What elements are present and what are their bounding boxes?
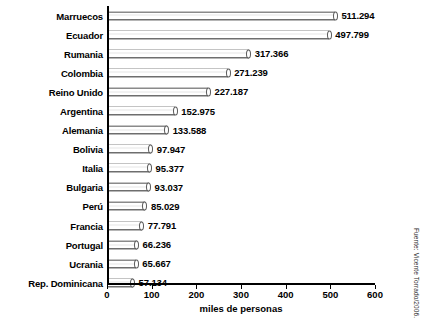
bar: 271.239 [107, 68, 228, 77]
bar: 95.377 [107, 164, 150, 173]
bar-value-label: 93.037 [155, 182, 183, 193]
bar-row: Perú85.029 [107, 197, 375, 216]
bar-body [107, 202, 145, 211]
x-tick-label: 600 [367, 289, 383, 300]
bar: 97.947 [107, 145, 151, 154]
source-note: Fuente: Vicente Torrado/2006. [413, 228, 420, 318]
x-tick-label: 100 [144, 289, 160, 300]
bar-end-cap [147, 164, 152, 173]
bar-body [107, 164, 150, 173]
bar-value-label: 65.667 [142, 258, 170, 269]
bar: 317.366 [107, 49, 249, 58]
bar-end-cap [148, 145, 153, 154]
bar-body [107, 30, 329, 39]
bar-rows: Marruecos511.294Ecuador497.799Rumania317… [107, 6, 375, 283]
bar-row: Reino Unido227.187 [107, 82, 375, 101]
bar-row: Bolivia97.947 [107, 140, 375, 159]
bar: 66.236 [107, 240, 137, 249]
bar-row: Argentina152.975 [107, 101, 375, 120]
bar-value-label: 66.236 [143, 239, 171, 250]
bar-end-cap [226, 68, 231, 77]
category-label: Perú [82, 201, 103, 212]
bar-row: Colombia271.239 [107, 63, 375, 82]
bar-row: Alemania133.588 [107, 121, 375, 140]
category-label: Colombia [61, 67, 103, 78]
bar-row: Rumania317.366 [107, 44, 375, 63]
x-tick-label: 500 [322, 289, 338, 300]
x-tick-label: 200 [188, 289, 204, 300]
bar-value-label: 97.947 [157, 144, 185, 155]
bar-row: Bulgaria93.037 [107, 178, 375, 197]
category-label: Alemania [62, 125, 103, 136]
bar: 85.029 [107, 202, 145, 211]
x-axis-title: miles de personas [107, 303, 375, 314]
bar-value-label: 497.799 [335, 29, 369, 40]
bar-body [107, 259, 136, 268]
bar-body [107, 240, 137, 249]
bar-end-cap [173, 107, 178, 116]
bar: 511.294 [107, 11, 335, 20]
bar-row: Ecuador497.799 [107, 25, 375, 44]
category-label: Argentina [60, 106, 103, 117]
bar-end-cap [246, 49, 251, 58]
bar-value-label: 152.975 [181, 106, 215, 117]
bar-value-label: 95.377 [156, 163, 184, 174]
bar-body [107, 49, 249, 58]
category-label: Italia [82, 163, 103, 174]
x-tick-label: 400 [278, 289, 294, 300]
bar-value-label: 317.366 [255, 48, 289, 59]
x-axis-ticks: 0100200300400500600 [107, 285, 375, 301]
bar-body [107, 145, 151, 154]
bar-body [107, 107, 175, 116]
bar: 77.791 [107, 221, 142, 230]
bar-end-cap [142, 202, 147, 211]
plot-area: Marruecos511.294Ecuador497.799Rumania317… [107, 6, 375, 283]
bar: 65.667 [107, 259, 136, 268]
bar-end-cap [146, 183, 151, 192]
bar-value-label: 227.187 [214, 86, 248, 97]
bar-row: Italia95.377 [107, 159, 375, 178]
bar-row: Ucrania65.667 [107, 254, 375, 273]
bar: 133.588 [107, 126, 167, 135]
bar-body [107, 87, 208, 96]
category-label: Portugal [66, 239, 103, 250]
bar-body [107, 68, 228, 77]
bar-body [107, 183, 149, 192]
bar-row: Portugal66.236 [107, 235, 375, 254]
category-label: Marruecos [56, 10, 103, 21]
category-label: Ecuador [66, 29, 103, 40]
y-axis-line [107, 6, 109, 283]
bar-body [107, 221, 142, 230]
bar-end-cap [139, 221, 144, 230]
bar-body [107, 11, 335, 20]
category-label: Rep. Dominicana [28, 277, 103, 288]
category-label: Bolivia [73, 144, 103, 155]
x-tick-label: 0 [104, 289, 109, 300]
bar-end-cap [206, 87, 211, 96]
bar-end-cap [327, 30, 332, 39]
bar: 497.799 [107, 30, 329, 39]
bar: 227.187 [107, 87, 208, 96]
bar-chart: Marruecos511.294Ecuador497.799Rumania317… [0, 0, 421, 322]
bar-value-label: 133.588 [173, 125, 207, 136]
category-label: Ucrania [69, 258, 103, 269]
bar-value-label: 85.029 [151, 201, 179, 212]
bar-value-label: 511.294 [341, 10, 374, 21]
bar-value-label: 271.239 [234, 67, 268, 78]
category-label: Rumania [64, 48, 103, 59]
bar-end-cap [134, 259, 139, 268]
bar-value-label: 77.791 [148, 220, 176, 231]
bar-end-cap [134, 240, 139, 249]
bar-row: Marruecos511.294 [107, 6, 375, 25]
bar-end-cap [333, 11, 338, 20]
bar-end-cap [164, 126, 169, 135]
bar-body [107, 126, 167, 135]
category-label: Reino Unido [49, 86, 103, 97]
bar-row: Francia77.791 [107, 216, 375, 235]
bar: 93.037 [107, 183, 149, 192]
bar: 152.975 [107, 107, 175, 116]
x-tick-label: 300 [233, 289, 249, 300]
category-label: Bulgaria [66, 182, 103, 193]
category-label: Francia [70, 220, 103, 231]
